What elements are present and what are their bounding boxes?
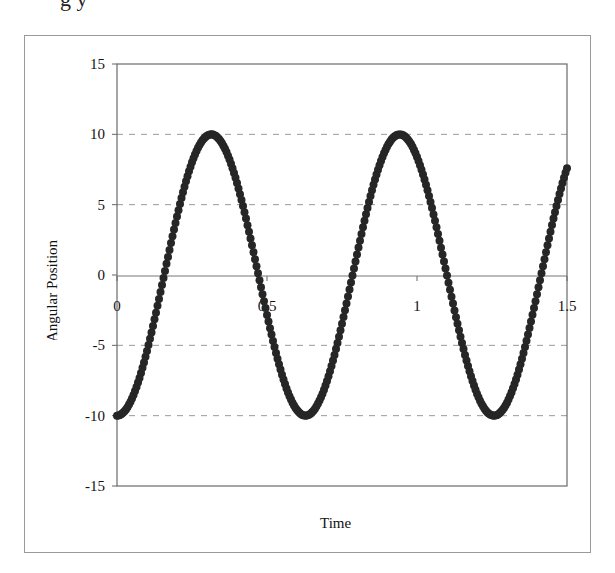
- data-point: [448, 293, 456, 301]
- data-point: [451, 306, 459, 314]
- data-point: [442, 265, 450, 273]
- data-point: [433, 223, 441, 231]
- data-point: [346, 286, 354, 294]
- data-point: [530, 304, 538, 312]
- data-point: [529, 311, 537, 319]
- y-tick-label: -10: [85, 408, 105, 424]
- data-point: [259, 290, 267, 298]
- y-tick-label: -15: [85, 478, 105, 494]
- data-point: [437, 244, 445, 252]
- data-point: [532, 297, 540, 305]
- data-point: [539, 262, 547, 270]
- data-point: [262, 304, 270, 312]
- data-point: [443, 272, 451, 280]
- y-axis-title-container: Angular Position: [40, 200, 66, 340]
- x-tick-label: 1: [413, 298, 421, 314]
- data-point: [440, 258, 448, 266]
- data-point: [352, 258, 360, 266]
- data-point: [356, 237, 364, 245]
- data-point: [260, 297, 268, 305]
- y-tick-label: 10: [90, 126, 105, 142]
- data-point: [527, 318, 535, 326]
- y-tick-label: 15: [90, 56, 105, 72]
- data-point: [445, 279, 453, 287]
- data-point: [547, 228, 555, 236]
- data-point: [436, 237, 444, 245]
- data-point: [152, 309, 160, 317]
- data-point: [251, 255, 259, 263]
- data-point: [164, 253, 172, 261]
- data-point: [563, 164, 571, 172]
- data-point: [350, 265, 358, 273]
- data-point: [170, 226, 178, 234]
- data-point: [158, 281, 166, 289]
- data-point: [542, 248, 550, 256]
- data-point: [439, 251, 447, 259]
- data-series-points: [113, 130, 571, 419]
- data-point: [257, 283, 265, 291]
- data-point: [536, 276, 544, 284]
- data-point: [353, 251, 361, 259]
- data-point: [434, 230, 442, 238]
- data-point: [449, 300, 457, 308]
- data-point: [358, 230, 366, 238]
- data-point: [256, 276, 264, 284]
- data-point: [167, 239, 175, 247]
- y-axis-ticks: 151050-5-10-15: [85, 56, 117, 494]
- data-point: [541, 255, 549, 263]
- data-point: [347, 279, 355, 287]
- data-point: [535, 283, 543, 291]
- data-point: [263, 311, 271, 319]
- data-point: [533, 290, 541, 298]
- data-point: [160, 274, 168, 282]
- plot-area-border: [117, 64, 567, 486]
- data-point: [355, 244, 363, 252]
- data-point: [253, 262, 261, 270]
- data-point: [248, 241, 256, 249]
- data-point: [154, 302, 162, 310]
- data-point: [250, 248, 258, 256]
- data-point: [247, 235, 255, 243]
- data-point: [157, 288, 165, 296]
- data-point: [166, 246, 174, 254]
- data-point: [545, 234, 553, 242]
- data-point: [341, 306, 349, 314]
- y-tick-label: 5: [98, 197, 106, 213]
- data-point: [161, 267, 169, 275]
- data-point: [338, 320, 346, 328]
- x-axis-title: Time: [320, 515, 351, 532]
- x-tick-label: 0: [113, 298, 121, 314]
- data-point: [340, 313, 348, 321]
- data-point: [163, 260, 171, 268]
- data-point: [245, 228, 253, 236]
- data-point: [446, 286, 454, 294]
- y-axis-title: Angular Position: [44, 240, 61, 340]
- chart-plot: 151050-5-10-15 00.511.5: [0, 0, 615, 573]
- data-point: [349, 272, 357, 280]
- data-point: [254, 269, 262, 277]
- y-tick-label: -5: [93, 337, 106, 353]
- data-point: [544, 241, 552, 249]
- data-point: [149, 322, 157, 330]
- data-point: [343, 299, 351, 307]
- data-point: [151, 315, 159, 323]
- x-tick-label: 1.5: [558, 298, 577, 314]
- data-point: [452, 313, 460, 321]
- data-point: [244, 221, 252, 229]
- y-tick-label: 0: [98, 267, 106, 283]
- data-point: [155, 295, 163, 303]
- data-point: [538, 269, 546, 277]
- data-point: [169, 232, 177, 240]
- data-point: [344, 293, 352, 301]
